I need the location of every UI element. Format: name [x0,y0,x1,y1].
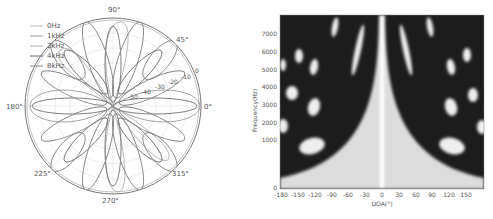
xtick-150: 150 [460,191,472,198]
y-axis: 7000 6000 5000 4000 3000 2000 1000 0 [262,30,277,191]
ytick-2000: 2000 [262,119,277,126]
angle-label-90: 90° [108,6,120,14]
angle-label-0: 0° [204,103,212,111]
ytick-7000: 7000 [262,30,277,37]
xtick-120: 120 [443,191,455,198]
radial-label-10: -10 [181,73,191,80]
ytick-0: 0 [273,184,277,191]
xtick-m120: -120 [308,191,322,198]
xtick-60: 60 [412,191,420,198]
legend-label-2khz: 2kHz [47,42,65,50]
xtick-m90: -90 [327,191,337,198]
legend: 0Hz 1kHz 2kHz 4kHz 8kHz [30,22,65,70]
radial-label-50: -50 [128,93,138,100]
ytick-1000: 1000 [262,136,277,143]
xtick-0: 0 [380,191,384,198]
angle-label-225: 225° [34,170,51,178]
angle-label-45: 45° [176,36,188,44]
radial-label-30: -30 [155,83,165,90]
legend-label-1khz: 1kHz [47,32,65,40]
xtick-90: 90 [428,191,436,198]
angle-label-270: 270° [102,197,119,205]
x-axis: -180 -150 -120 -90 -60 -30 0 30 60 90 12… [274,191,472,198]
x-axis-label: DOA(°) [371,200,392,207]
angle-label-180: 180° [6,103,23,111]
ytick-4000: 4000 [262,83,277,90]
xtick-m180: -180 [274,191,288,198]
y-axis-label: Frequency(Hz) [251,89,259,132]
ytick-6000: 6000 [262,48,277,55]
xtick-m60: -60 [343,191,353,198]
legend-label-4khz: 4kHz [47,52,65,60]
radial-label-40: -40 [141,88,151,95]
doa-frequency-heatmap: 7000 6000 5000 4000 3000 2000 1000 0 Fre… [250,0,493,219]
radial-label-20: -20 [168,78,178,85]
polar-beampattern-chart: 90° 45° 0° 180° 225° 315° 270° 0 -10 -20… [0,0,240,205]
xtick-30: 30 [395,191,403,198]
ytick-3000: 3000 [262,101,277,108]
xtick-m150: -150 [291,191,305,198]
xtick-m30: -30 [360,191,370,198]
angle-label-315: 315° [172,170,189,178]
legend-label-0hz: 0Hz [47,22,61,30]
radial-label-0: 0 [195,67,199,74]
heatmap-area [278,15,487,189]
legend-label-8khz: 8kHz [47,62,65,70]
ytick-5000: 5000 [262,66,277,73]
